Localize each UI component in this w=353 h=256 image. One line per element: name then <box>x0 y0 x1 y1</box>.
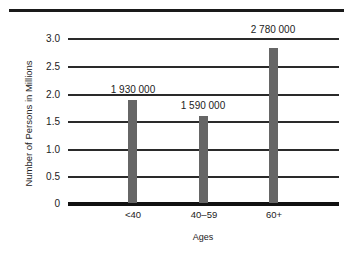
y-tick: 2.0 <box>30 90 60 100</box>
gridline-3.0 <box>68 38 339 40</box>
y-tick: 0 <box>30 199 60 209</box>
x-tick: <40 <box>113 210 153 220</box>
bar-40-59 <box>199 116 208 203</box>
y-tick: 1.0 <box>30 145 60 155</box>
gridline-2.5 <box>68 66 339 68</box>
y-tick: 1.5 <box>30 117 60 127</box>
x-axis-label: Ages <box>173 233 233 242</box>
y-tick: 2.5 <box>30 62 60 72</box>
y-tick: 3.0 <box>30 34 60 44</box>
y-axis-label: Number of Persons in Millions <box>23 40 34 208</box>
y-tick: 0.5 <box>30 172 60 182</box>
x-tick: 60+ <box>254 210 294 220</box>
top-rule <box>9 9 344 12</box>
bar-60-plus <box>269 48 278 203</box>
bar-under-40 <box>128 100 137 203</box>
x-tick: 40–59 <box>184 210 224 220</box>
data-label: 1 930 000 <box>93 85 173 95</box>
data-label: 1 590 000 <box>163 101 243 111</box>
data-label: 2 780 000 <box>233 25 313 35</box>
